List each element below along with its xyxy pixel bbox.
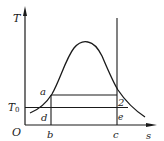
y-axis-arrow-icon (23, 6, 27, 16)
point-b-label: b (47, 129, 53, 140)
point-d-label: d (41, 112, 47, 123)
point-2-label: 2 (117, 97, 124, 108)
point-c-label: c (113, 129, 119, 140)
t0-label-subscript: 0 (15, 106, 19, 114)
point-e-label: e (118, 112, 123, 122)
x-axis-label: s (146, 130, 151, 141)
t0-label: T0 (8, 101, 19, 114)
saturation-curve (30, 42, 145, 117)
ts-diagram: T s O T0 a d b c 2 e (0, 0, 164, 141)
x-axis-arrow-icon (146, 123, 157, 127)
origin-label: O (12, 126, 21, 139)
point-a-label: a (40, 86, 46, 97)
y-axis-label: T (13, 12, 22, 25)
